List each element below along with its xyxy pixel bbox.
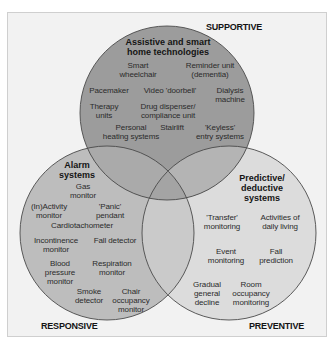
item-pacemaker: Pacemaker xyxy=(89,86,129,95)
item-gradual-general-decline: Gradual general decline xyxy=(193,280,221,307)
item-keyless-entry: 'Keyless' entry systems xyxy=(196,123,244,141)
item-respiration-monitor: Respiration monitor xyxy=(92,259,131,277)
item-drug-dispenser: Drug dispenser/ compliance unit xyxy=(141,102,196,120)
alarm-systems-title: Alarm systems xyxy=(59,160,95,180)
item-smart-wheelchair: Smart wheelchair xyxy=(119,61,156,79)
item-room-occupancy-monitoring: Room occupancy monitoring xyxy=(232,280,269,307)
item-blood-pressure-monitor: Blood pressure monitor xyxy=(45,259,75,286)
item-inactivity-monitor: (In)Activity monitor xyxy=(31,202,67,220)
item-transfer-monitoring: 'Transfer' monitoring xyxy=(204,213,240,231)
item-incontinence-monitor: Incontinence monitor xyxy=(34,236,78,254)
item-cardiotachometer: Cardiotachometer xyxy=(51,221,113,230)
item-event-monitoring: Event monitoring xyxy=(208,247,244,265)
predictive-systems-title: Predictive/ deductive systems xyxy=(239,173,285,203)
item-fall-detector: Fall detector xyxy=(94,236,137,245)
item-gas-monitor: Gas monitor xyxy=(70,182,96,200)
item-chair-occupancy-monitor: Chair occupancy monitor xyxy=(112,287,149,314)
assistive-technologies-title: Assistive and smart home technologies xyxy=(125,37,210,57)
supportive-label: SUPPORTIVE xyxy=(206,22,262,32)
item-reminder-unit: Reminder unit (dementia) xyxy=(186,61,235,79)
item-personal-heating: Personal heating systems xyxy=(103,123,159,141)
item-smoke-detector: Smoke detector xyxy=(75,287,103,305)
item-dialysis-machine: Dialysis machine xyxy=(215,86,245,104)
item-video-doorbell: Video 'doorbell' xyxy=(144,86,196,95)
item-panic-pendant: 'Panic' pendant xyxy=(96,202,124,220)
item-stairlift: Stairlift xyxy=(160,123,184,132)
item-fall-prediction: Fall prediction xyxy=(259,247,293,265)
preventive-label: PREVENTIVE xyxy=(249,321,304,331)
item-therapy-units: Therapy units xyxy=(90,102,119,120)
responsive-label: RESPONSIVE xyxy=(41,321,98,331)
item-activities-daily-living: Activities of daily living xyxy=(260,213,299,231)
